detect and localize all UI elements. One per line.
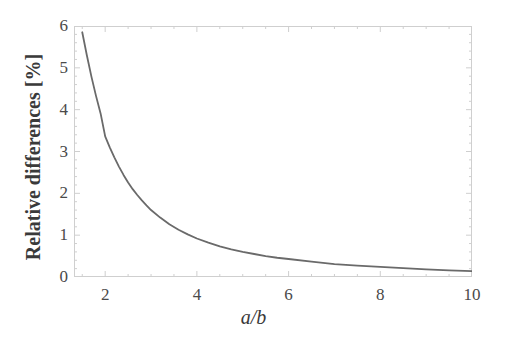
y-tick-label: 3 — [46, 143, 68, 160]
x-tick-label: 10 — [452, 286, 492, 303]
y-axis-tick-labels: 0123456 — [44, 26, 68, 277]
chart-figure: Relative differences [%] 0123456 246810 … — [0, 0, 507, 348]
x-axis-title: a/b — [0, 306, 507, 329]
plot-area — [74, 26, 472, 277]
y-tick-label: 2 — [46, 184, 68, 201]
y-tick-label: 1 — [46, 226, 68, 243]
y-tick-label: 6 — [46, 17, 68, 34]
x-tick-label: 6 — [269, 286, 309, 303]
y-tick-label: 5 — [46, 59, 68, 76]
y-tick-label: 0 — [46, 268, 68, 285]
x-tick-label: 4 — [177, 286, 217, 303]
x-tick-label: 2 — [85, 286, 125, 303]
data-series-line — [82, 32, 472, 271]
x-tick-label: 8 — [360, 286, 400, 303]
x-axis-tick-labels: 246810 — [74, 281, 472, 303]
plot-canvas — [74, 26, 472, 277]
axis-tick-marks — [74, 26, 472, 277]
y-tick-label: 4 — [46, 101, 68, 118]
